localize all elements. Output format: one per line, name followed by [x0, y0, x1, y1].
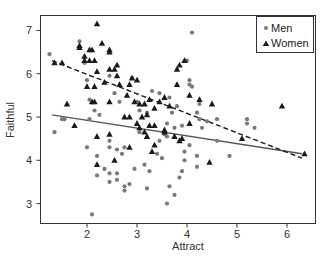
men-point [107, 171, 111, 175]
men-point [215, 117, 219, 121]
men-point [167, 184, 171, 188]
y-tick-label: 5 [26, 111, 32, 123]
scatter-chart: 23456 Attract 34567 Faithful Men Women [0, 0, 331, 267]
y-axis-label: Faithful [4, 102, 16, 138]
men-point [122, 184, 126, 188]
x-axis: 23456 Attract [84, 224, 290, 253]
men-point [252, 126, 256, 130]
men-point [115, 178, 119, 182]
men-point [145, 186, 149, 190]
legend-item-men: Men [271, 22, 292, 34]
men-point [117, 100, 121, 104]
men-point [127, 182, 131, 186]
x-tick-label: 6 [284, 228, 290, 240]
men-point [187, 78, 191, 82]
men-point [107, 180, 111, 184]
men-point [107, 145, 111, 149]
men-point [95, 154, 99, 158]
men-point [160, 156, 164, 160]
men-point [107, 74, 111, 78]
men-point [157, 91, 161, 95]
men-point [200, 126, 204, 130]
men-point [132, 167, 136, 171]
men-point [142, 163, 146, 167]
y-axis: 34567 Faithful [4, 24, 41, 209]
men-point [215, 139, 219, 143]
men-point [155, 152, 159, 156]
men-point [120, 152, 124, 156]
men-point [180, 124, 184, 128]
men-point [167, 95, 171, 99]
men-point [187, 143, 191, 147]
men-point [62, 117, 66, 121]
x-tick-label: 2 [84, 228, 90, 240]
men-point [52, 130, 56, 134]
y-tick-label: 6 [26, 68, 32, 80]
men-point [195, 154, 199, 158]
men-point [182, 158, 186, 162]
men-point [177, 176, 181, 180]
y-tick-label: 4 [26, 154, 32, 166]
legend-item-women: Women [271, 37, 309, 49]
men-point [85, 145, 89, 149]
men-point [122, 145, 126, 149]
men-point [115, 171, 119, 175]
men-point [137, 130, 141, 134]
men-point [107, 139, 111, 143]
men-point [122, 189, 126, 193]
men-point [85, 78, 89, 82]
men-point [95, 173, 99, 177]
men-point [190, 30, 194, 34]
men-point [180, 169, 184, 173]
x-axis-label: Attract [172, 240, 204, 252]
men-point [190, 85, 194, 89]
men-point [165, 202, 169, 206]
men-point [182, 150, 186, 154]
men-point [112, 91, 116, 95]
men-point [175, 104, 179, 108]
men-point [205, 119, 209, 123]
men-point [172, 126, 176, 130]
men-point [197, 117, 201, 121]
men-point [47, 52, 51, 56]
men-point [245, 117, 249, 121]
men-point [92, 108, 96, 112]
men-point [195, 165, 199, 169]
men-point [195, 111, 199, 115]
y-tick-label: 7 [26, 24, 32, 36]
men-point [147, 169, 151, 173]
men-point [115, 147, 119, 151]
men-point [197, 102, 201, 106]
x-tick-label: 5 [234, 228, 240, 240]
men-point [102, 167, 106, 171]
men-point [170, 111, 174, 115]
men-point [150, 89, 154, 93]
x-tick-label: 3 [134, 228, 140, 240]
men-point [165, 134, 169, 138]
men-point [137, 108, 141, 112]
men-point [157, 139, 161, 143]
men-point [87, 117, 91, 121]
men-point [172, 193, 176, 197]
men-point [165, 121, 169, 125]
x-tick-label: 4 [184, 228, 190, 240]
men-marker-icon [264, 26, 268, 30]
men-point [90, 212, 94, 216]
y-tick-label: 3 [26, 198, 32, 210]
legend: Men Women [257, 17, 314, 53]
men-point [97, 113, 101, 117]
men-point [227, 154, 231, 158]
men-point [245, 121, 249, 125]
